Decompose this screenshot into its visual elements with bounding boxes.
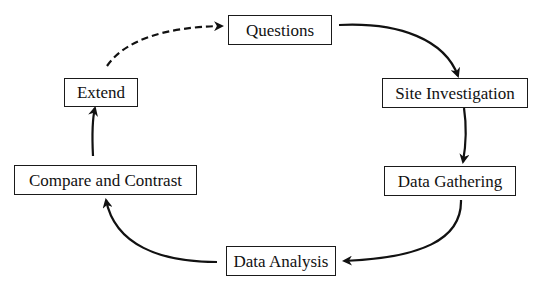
- node-site-investigation: Site Investigation: [382, 78, 528, 108]
- arrow-analysis-to-compare: [106, 200, 217, 262]
- node-compare-and-contrast: Compare and Contrast: [14, 165, 197, 195]
- node-label: Data Gathering: [398, 173, 502, 190]
- arrow-questions-to-site: [339, 25, 458, 76]
- arrow-extend-to-questions: [107, 26, 222, 66]
- cycle-diagram: Questions Site Investigation Data Gather…: [0, 0, 533, 289]
- node-label: Questions: [246, 22, 314, 39]
- node-label: Data Analysis: [234, 253, 329, 270]
- node-label: Site Investigation: [395, 85, 514, 102]
- node-label: Compare and Contrast: [29, 172, 182, 189]
- node-data-gathering: Data Gathering: [384, 166, 516, 196]
- arrow-site-to-gathering: [463, 108, 466, 162]
- node-extend: Extend: [64, 78, 138, 107]
- node-questions: Questions: [228, 15, 332, 45]
- node-label: Extend: [77, 84, 125, 101]
- node-data-analysis: Data Analysis: [226, 246, 336, 276]
- arrow-compare-to-extend: [92, 108, 95, 156]
- arrow-gathering-to-analysis: [344, 200, 461, 261]
